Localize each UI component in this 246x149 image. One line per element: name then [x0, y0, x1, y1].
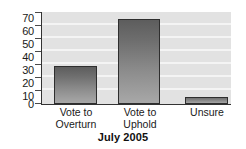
y-tick-label-30: 30 [10, 65, 34, 76]
y-tick-label-70: 70 [10, 13, 34, 24]
x-label-vote-to-uphold-line1: Vote to [104, 107, 176, 119]
bar-vote-to-uphold[interactable] [118, 19, 160, 104]
y-tick-label-40: 40 [10, 52, 34, 63]
x-label-vote-to-uphold: Vote to Uphold [104, 107, 176, 130]
x-axis-line [41, 104, 231, 105]
y-tick-label-50: 50 [10, 39, 34, 50]
y-tick-label-60: 60 [10, 26, 34, 37]
chart-title: July 2005 [0, 131, 246, 143]
x-label-unsure-line1: Unsure [171, 107, 243, 119]
y-tick-label-0: 0 [10, 99, 34, 110]
bar-unsure[interactable] [185, 97, 228, 104]
plot-area [42, 12, 231, 104]
y-axis-tick-labels: 70 60 50 40 30 20 10 0 [10, 6, 34, 104]
bars-layer [42, 12, 231, 104]
x-label-vote-to-uphold-line2: Uphold [104, 119, 176, 131]
bar-chart: 70 60 50 40 30 20 10 0 [0, 0, 246, 149]
x-label-vote-to-overturn-line1: Vote to [40, 107, 112, 119]
x-label-unsure: Unsure [171, 107, 243, 119]
x-label-vote-to-overturn-line2: Overturn [40, 119, 112, 131]
y-axis-line [41, 12, 42, 105]
bar-vote-to-overturn[interactable] [54, 66, 97, 104]
x-label-vote-to-overturn: Vote to Overturn [40, 107, 112, 130]
x-axis-category-labels: Vote to Overturn Vote to Uphold Unsure [42, 107, 231, 131]
y-tick-label-20: 20 [10, 78, 34, 89]
